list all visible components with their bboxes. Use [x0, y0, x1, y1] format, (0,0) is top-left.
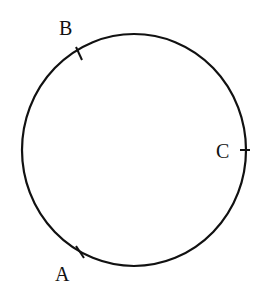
point-b-label: B: [59, 18, 72, 38]
diagram-canvas: A B C: [0, 0, 269, 307]
point-a-label: A: [55, 264, 69, 284]
circle: [22, 34, 246, 266]
point-c-label: C: [216, 141, 229, 161]
